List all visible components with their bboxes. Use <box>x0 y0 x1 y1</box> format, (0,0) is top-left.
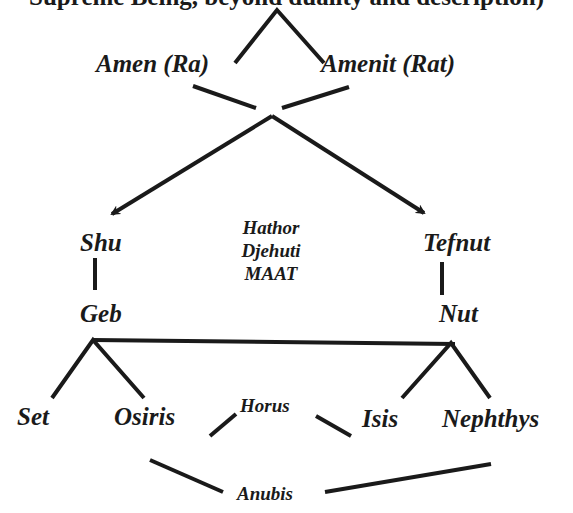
nut-children-line <box>402 343 490 398</box>
osiris-anubis-line <box>150 460 223 492</box>
node-shu: Shu <box>80 230 122 255</box>
node-horus: Horus <box>240 396 290 415</box>
arrow-to-tefnut <box>272 116 424 213</box>
egyptian-deity-genealogy-diagram: Supreme Being, beyond duality and descri… <box>0 0 573 513</box>
horus-isis-line <box>316 416 351 436</box>
node-anubis: Anubis <box>237 484 293 503</box>
nephthys-anubis-line <box>325 464 491 492</box>
arrow-to-shu <box>112 116 272 214</box>
node-nephthys: Nephthys <box>442 406 539 431</box>
top-apex-line <box>235 10 324 63</box>
amenit-cross-line <box>282 87 349 108</box>
node-amen: Amen (Ra) <box>96 51 209 76</box>
node-tefnut: Tefnut <box>423 230 490 255</box>
osiris-horus-line <box>210 414 236 436</box>
node-maat: MAAT <box>221 262 321 285</box>
node-nut: Nut <box>439 301 478 326</box>
node-isis: Isis <box>362 406 398 431</box>
node-amenit: Amenit (Rat) <box>321 51 455 76</box>
node-djehuti: Djehuti <box>221 239 321 262</box>
amen-cross-line <box>193 86 256 108</box>
node-geb: Geb <box>80 301 122 326</box>
node-set: Set <box>17 404 49 429</box>
geb-children-line <box>52 340 144 398</box>
node-hathor: Hathor <box>221 216 321 239</box>
center-deities: Hathor Djehuti MAAT <box>221 216 321 285</box>
geb-nut-line <box>93 340 455 344</box>
node-osiris: Osiris <box>114 404 175 429</box>
